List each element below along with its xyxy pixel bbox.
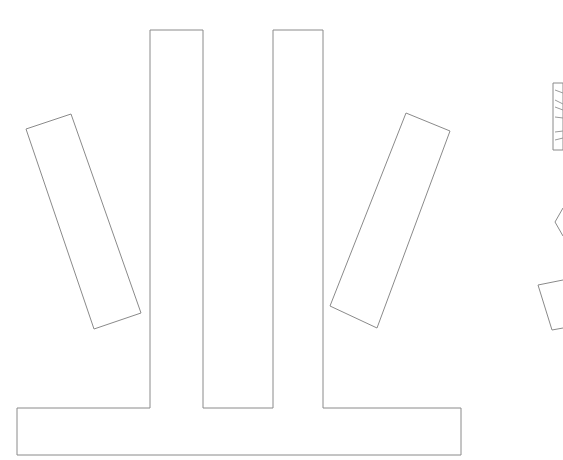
right-tilted-rectangle: [330, 113, 450, 328]
edge-hatched-rectangle-outline: [553, 83, 563, 150]
edge-quadrilateral: [538, 280, 563, 330]
edge-hatched-rectangle: [553, 83, 563, 150]
main-frame-outline: [17, 30, 461, 455]
edge-chevron-shape: [555, 208, 563, 236]
diagram-canvas: [0, 0, 563, 460]
left-tilted-rectangle: [26, 114, 141, 329]
